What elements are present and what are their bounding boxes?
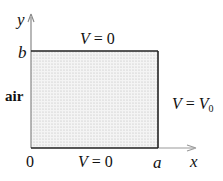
bottom-boundary-condition: V = 0 [78,154,113,170]
right-bc-eq: = [186,95,195,112]
y-tick-label-b: b [18,44,27,61]
top-bc-rhs: 0 [107,30,115,47]
top-bc-eq: = [94,30,103,47]
x-tick-label-a: a [153,154,162,171]
top-bc-lhs: V [80,30,90,47]
origin-label: 0 [26,154,34,170]
bottom-bc-eq: = [92,153,101,170]
right-bc-lhs: V [172,95,182,112]
top-boundary-condition: V = 0 [80,31,115,47]
bottom-bc-lhs: V [78,153,88,170]
bottom-bc-rhs: 0 [105,153,113,170]
right-bc-rhs: V [199,95,209,112]
dotted-region [31,51,158,148]
x-axis-label: x [190,153,198,170]
region-label-air: air [5,89,23,104]
right-bc-rhs-subscript: 0 [209,103,214,114]
right-boundary-condition: V = V0 [172,96,214,114]
y-axis-label: y [17,11,25,28]
rectangular-region-diagram: y b 0 a x air V = 0 V = 0 V = V0 [0,0,223,181]
